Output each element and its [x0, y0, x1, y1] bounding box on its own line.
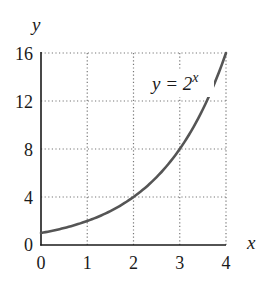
x-tick-3: 3 — [175, 253, 184, 273]
y-tick-0: 0 — [24, 235, 33, 255]
svg-text:y = 2x: y = 2x — [150, 70, 199, 94]
x-tick-0: 0 — [37, 253, 46, 273]
function-annotation: y = 2x — [150, 70, 214, 97]
annotation-exponent: x — [191, 70, 199, 85]
x-axis-label: x — [246, 232, 256, 253]
x-tick-2: 2 — [129, 253, 138, 273]
y-tick-16: 16 — [15, 44, 33, 64]
annotation-base: y = 2 — [150, 73, 193, 94]
y-tick-12: 12 — [15, 92, 33, 112]
x-tick-4: 4 — [222, 253, 231, 273]
y-axis-label: y — [30, 14, 41, 35]
y-tick-8: 8 — [24, 140, 33, 160]
y-tick-4: 4 — [24, 188, 33, 208]
chart: y x 16 12 8 4 0 0 1 2 3 4 y = 2x — [0, 0, 271, 281]
x-tick-1: 1 — [83, 253, 92, 273]
